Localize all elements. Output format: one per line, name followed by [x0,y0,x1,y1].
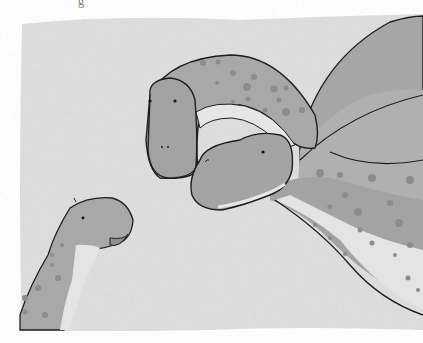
eye [148,99,151,102]
eye [82,217,85,220]
eye [173,99,176,102]
nostril [167,146,169,148]
dinosaur-illustration [0,0,423,343]
eye [261,150,264,153]
nostril [161,146,163,148]
